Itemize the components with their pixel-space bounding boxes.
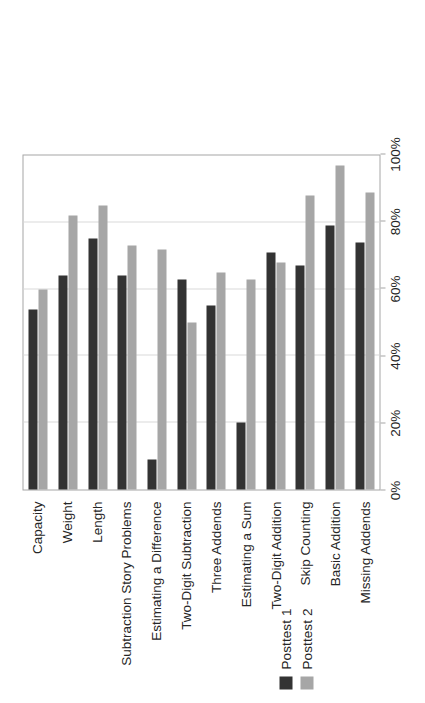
bar-posttest-1[interactable] (147, 459, 156, 489)
bar-posttest-2[interactable] (305, 195, 314, 489)
category-label: Two-Digit Subtraction (171, 494, 201, 703)
bar-group (142, 155, 172, 489)
category-label: Subtraction Story Problems (111, 494, 141, 703)
bar-posttest-1[interactable] (355, 242, 364, 489)
axis-tick-label: 40% (388, 342, 402, 369)
bar-posttest-1[interactable] (325, 225, 334, 489)
bar-posttest-2[interactable] (157, 249, 166, 489)
bar-posttest-2[interactable] (127, 245, 136, 489)
bar-group (231, 155, 261, 489)
category-label: Two-Digit Addition (261, 494, 291, 703)
bar-group (320, 155, 350, 489)
category-label: Weight (52, 494, 82, 703)
category-label: Basic Addition (320, 494, 350, 703)
chart-figure: Posttest 1Posttest 2 CapacityWeightLengt… (0, 0, 425, 703)
bar-posttest-1[interactable] (206, 305, 215, 489)
category-label: Estimating a Difference (141, 494, 171, 703)
plot-area (22, 154, 380, 490)
bar-posttest-1[interactable] (117, 275, 126, 489)
category-label: Three Addends (201, 494, 231, 703)
chart-canvas: Posttest 1Posttest 2 CapacityWeightLengt… (0, 0, 425, 703)
bar-posttest-2[interactable] (216, 272, 225, 489)
axis-tick (380, 422, 385, 423)
bar-group (112, 155, 142, 489)
bar-posttest-1[interactable] (28, 309, 37, 489)
bar-posttest-1[interactable] (58, 275, 67, 489)
axis-tick (380, 153, 385, 154)
bar-posttest-2[interactable] (38, 289, 47, 489)
bar-posttest-1[interactable] (266, 252, 275, 489)
category-label: Capacity (22, 494, 52, 703)
axis-tick-label: 100% (388, 137, 402, 172)
axis-tick (380, 489, 385, 490)
bar-group (171, 155, 201, 489)
bar-series-container (23, 155, 379, 489)
bar-posttest-2[interactable] (365, 192, 374, 489)
axis-tick (380, 287, 385, 288)
axis-tick-label: 80% (388, 208, 402, 235)
bar-posttest-1[interactable] (295, 265, 304, 489)
rotated-figure-wrapper: Posttest 1Posttest 2 CapacityWeightLengt… (0, 0, 425, 703)
category-label: Length (82, 494, 112, 703)
axis-tick (380, 355, 385, 356)
bar-posttest-2[interactable] (335, 165, 344, 489)
bar-posttest-2[interactable] (187, 322, 196, 489)
value-axis: 0%20%40%60%80%100% (380, 154, 420, 490)
category-axis: CapacityWeightLengthSubtraction Story Pr… (22, 494, 380, 703)
bar-group (201, 155, 231, 489)
axis-tick-label: 20% (388, 409, 402, 436)
bar-posttest-2[interactable] (246, 279, 255, 489)
axis-tick-label: 0% (388, 480, 402, 500)
axis-tick (380, 220, 385, 221)
bar-group (349, 155, 379, 489)
bar-posttest-1[interactable] (236, 422, 245, 489)
bar-posttest-2[interactable] (68, 215, 77, 489)
bar-posttest-1[interactable] (88, 239, 97, 490)
bar-group (82, 155, 112, 489)
category-label: Estimating a Sum (231, 494, 261, 703)
category-label: Missing Addends (350, 494, 380, 703)
bar-posttest-2[interactable] (276, 262, 285, 489)
bar-group (290, 155, 320, 489)
bar-group (23, 155, 53, 489)
category-label: Skip Counting (290, 494, 320, 703)
bar-posttest-2[interactable] (98, 205, 107, 489)
bar-posttest-1[interactable] (177, 279, 186, 489)
bar-group (53, 155, 83, 489)
bar-group (260, 155, 290, 489)
axis-tick-label: 60% (388, 275, 402, 302)
